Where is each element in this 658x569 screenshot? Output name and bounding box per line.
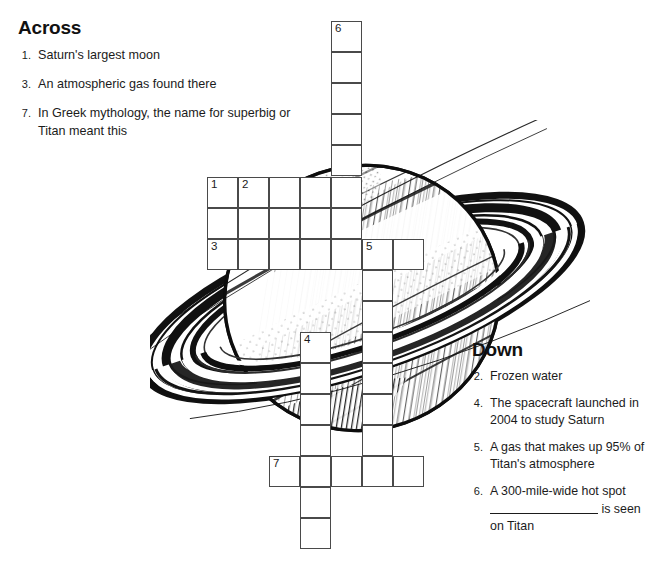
crossword-cell[interactable] <box>300 456 331 487</box>
crossword-cell[interactable] <box>362 301 393 332</box>
crossword-cell[interactable] <box>300 239 331 270</box>
crossword-cell[interactable] <box>269 208 300 239</box>
across-clue-3-number: 3. <box>18 76 38 94</box>
across-clue-3-text: An atmospheric gas found there <box>38 76 318 94</box>
crossword-cell[interactable] <box>362 363 393 394</box>
down-clue-2-number: 2. <box>472 368 490 386</box>
crossword-cell-6[interactable]: 6 <box>331 21 362 52</box>
crossword-page: Across 1. Saturn's largest moon 3. An at… <box>0 0 658 569</box>
crossword-cell[interactable] <box>393 239 424 270</box>
crossword-cell-1[interactable]: 1 <box>207 177 238 208</box>
crossword-cell[interactable] <box>238 208 269 239</box>
crossword-cell[interactable] <box>331 177 362 208</box>
crossword-cell-4[interactable]: 4 <box>300 332 331 363</box>
crossword-cell[interactable] <box>300 363 331 394</box>
cell-number-4: 4 <box>304 333 310 346</box>
crossword-cell[interactable] <box>300 208 331 239</box>
across-clue-7: 7. In Greek mythology, the name for supe… <box>18 105 318 141</box>
cell-number-6: 6 <box>335 22 341 35</box>
across-clue-1-text: Saturn's largest moon <box>38 47 318 65</box>
crossword-cell[interactable] <box>331 114 362 145</box>
crossword-cell[interactable] <box>269 239 300 270</box>
across-clue-3: 3. An atmospheric gas found there <box>18 76 318 94</box>
across-clue-7-text: In Greek mythology, the name for superbi… <box>38 105 318 141</box>
across-clues-section: Across 1. Saturn's largest moon 3. An at… <box>18 18 318 152</box>
crossword-cell[interactable] <box>300 177 331 208</box>
crossword-cell-3[interactable]: 3 <box>207 239 238 270</box>
crossword-cell-5[interactable]: 5 <box>362 239 393 270</box>
cell-number-7: 7 <box>273 457 279 470</box>
across-clue-1: 1. Saturn's largest moon <box>18 47 318 65</box>
across-clue-7-number: 7. <box>18 105 38 141</box>
crossword-cell[interactable] <box>393 456 424 487</box>
down-clue-2-text: Frozen water <box>490 368 652 386</box>
crossword-cell[interactable] <box>331 456 362 487</box>
cell-number-5: 5 <box>366 240 372 253</box>
cell-number-3: 3 <box>211 240 217 253</box>
down-clue-6-text-before: A 300-mile-wide hot spot <box>490 484 626 498</box>
crossword-cell[interactable] <box>207 208 238 239</box>
down-clue-2: 2. Frozen water <box>472 368 652 386</box>
across-clue-list: 1. Saturn's largest moon 3. An atmospher… <box>18 47 318 141</box>
crossword-cell[interactable] <box>362 332 393 363</box>
crossword-cell[interactable] <box>300 425 331 456</box>
down-clue-6-text: A 300-mile-wide hot spot is seen on Tita… <box>490 483 652 536</box>
down-clue-6: 6. A 300-mile-wide hot spot is seen on T… <box>472 483 652 536</box>
across-clue-1-number: 1. <box>18 47 38 65</box>
crossword-cell[interactable] <box>269 177 300 208</box>
crossword-cell[interactable] <box>300 487 331 518</box>
crossword-cell[interactable] <box>362 456 393 487</box>
down-clues-section: Down 2. Frozen water 4. The spacecraft l… <box>472 340 652 545</box>
crossword-cell[interactable] <box>331 145 362 176</box>
crossword-cell[interactable] <box>331 83 362 114</box>
down-heading: Down <box>472 340 652 359</box>
down-clue-list: 2. Frozen water 4. The spacecraft launch… <box>472 368 652 536</box>
down-clue-5-number: 5. <box>472 439 490 474</box>
across-heading: Across <box>18 18 318 37</box>
crossword-cell[interactable] <box>331 239 362 270</box>
down-clue-4-number: 4. <box>472 395 490 430</box>
crossword-cell-2[interactable]: 2 <box>238 177 269 208</box>
down-clue-5-text: A gas that makes up 95% of Titan's atmos… <box>490 439 652 474</box>
cell-number-2: 2 <box>242 178 248 191</box>
crossword-cell[interactable] <box>238 239 269 270</box>
crossword-cell[interactable] <box>300 394 331 425</box>
crossword-cell[interactable] <box>331 208 362 239</box>
down-clue-6-number: 6. <box>472 483 490 536</box>
down-clue-4: 4. The spacecraft launched in 2004 to st… <box>472 395 652 430</box>
page-top-cutoff <box>56 0 186 6</box>
crossword-cell[interactable] <box>362 394 393 425</box>
down-clue-4-text: The spacecraft launched in 2004 to study… <box>490 395 652 430</box>
down-clue-5: 5. A gas that makes up 95% of Titan's at… <box>472 439 652 474</box>
crossword-cell[interactable] <box>362 270 393 301</box>
fill-in-blank-rule <box>490 503 598 514</box>
crossword-cell[interactable] <box>300 518 331 549</box>
crossword-cell-7[interactable]: 7 <box>269 456 300 487</box>
cell-number-1: 1 <box>211 178 217 191</box>
crossword-cell[interactable] <box>362 425 393 456</box>
crossword-cell[interactable] <box>331 52 362 83</box>
